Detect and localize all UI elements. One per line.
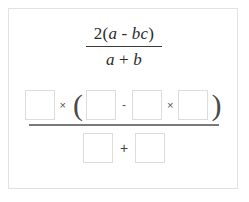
answer-input-box-4[interactable]: [178, 90, 208, 120]
given-fraction-bar: [86, 46, 162, 47]
given-numerator-variable-a: a: [108, 24, 117, 43]
given-denominator: a + b: [9, 49, 239, 70]
answer-numerator-row: × ( - × ): [9, 87, 239, 123]
plus-operator: +: [113, 140, 135, 156]
answer-input-box-5[interactable]: [83, 133, 113, 163]
multiply-operator-2: ×: [162, 99, 178, 111]
given-denominator-plus-operator: +: [119, 50, 129, 69]
answer-input-box-3[interactable]: [132, 90, 162, 120]
multiply-operator-1: ×: [55, 99, 71, 111]
answer-input-box-2[interactable]: [86, 90, 116, 120]
answer-input-box-6[interactable]: [135, 133, 165, 163]
given-numerator-close-paren: ): [148, 24, 154, 43]
answer-fraction-bar: [29, 124, 219, 126]
given-numerator-variable-bc: bc: [132, 24, 148, 43]
answer-fraction: × ( - × ) +: [9, 87, 239, 166]
answer-denominator-row: +: [9, 130, 239, 166]
given-expression: 2(a - bc) a + b: [9, 23, 239, 70]
given-numerator-minus-operator: -: [122, 24, 128, 43]
given-numerator: 2(a - bc): [9, 23, 239, 44]
math-exercise-card: 2(a - bc) a + b × ( - × ) +: [8, 8, 238, 189]
given-numerator-coefficient: 2: [94, 24, 103, 43]
minus-operator: -: [116, 98, 132, 112]
answer-input-box-1[interactable]: [25, 90, 55, 120]
given-denominator-variable-a: a: [106, 50, 115, 69]
given-denominator-variable-b: b: [133, 50, 142, 69]
